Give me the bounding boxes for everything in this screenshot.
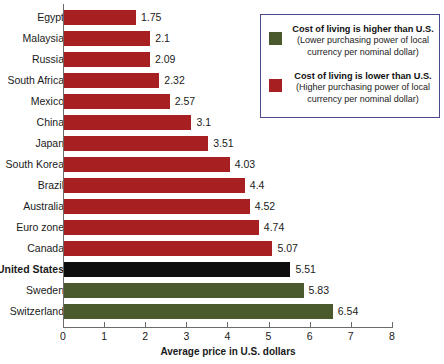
category-label: South Africa: [0, 73, 64, 88]
x-axis-tick: [392, 322, 393, 327]
bar-value-label: 4.03: [235, 157, 255, 172]
bar: [64, 241, 272, 256]
category-label: Canada: [0, 241, 64, 256]
bar-value-label: 1.75: [141, 10, 161, 25]
bar: [64, 157, 230, 172]
category-label: Switzerland: [0, 304, 64, 319]
category-label: China: [0, 115, 64, 130]
bar: [64, 52, 150, 67]
bar-row: Japan3.51: [0, 136, 444, 151]
category-label: Malaysia: [0, 31, 64, 46]
x-axis-tick: [186, 322, 187, 327]
x-axis-tick-label: 5: [254, 330, 284, 342]
y-axis-line: [63, 4, 64, 322]
category-label: Euro zone: [0, 220, 64, 235]
legend-title-higher: Cost of living is higher than U.S.: [289, 23, 437, 35]
bar-value-label: 2.1: [155, 31, 170, 46]
bar: [64, 178, 245, 193]
category-label: United States: [0, 262, 64, 277]
bar-row: Euro zone4.74: [0, 220, 444, 235]
category-label: Russia: [0, 52, 64, 67]
bar-row: Canada5.07: [0, 241, 444, 256]
x-axis-tick: [145, 322, 146, 327]
bar-value-label: 3.1: [196, 115, 211, 130]
x-axis-tick: [104, 322, 105, 327]
bar: [64, 199, 250, 214]
legend-sub-lower-line2: currency per nominal dollar): [289, 94, 437, 106]
bar-row: Brazil4.4: [0, 178, 444, 193]
bar-value-label: 2.32: [164, 73, 184, 88]
bar-value-label: 5.07: [277, 241, 297, 256]
bar: [64, 94, 170, 109]
x-axis-title: Average price in U.S. dollars: [63, 346, 393, 357]
x-axis-tick-label: 2: [130, 330, 160, 342]
x-axis-tick-label: 8: [377, 330, 407, 342]
legend-text-higher: Cost of living is higher than U.S. (Lowe…: [289, 23, 437, 58]
bar: [64, 31, 150, 46]
category-label: Mexico: [0, 94, 64, 109]
x-axis-tick: [63, 322, 64, 327]
x-axis-tick-label: 4: [212, 330, 242, 342]
category-label: South Korea: [0, 157, 64, 172]
x-axis-tick-label: 1: [89, 330, 119, 342]
legend-sub-higher-line1: (Lower purchasing power of local: [289, 35, 437, 47]
bar-value-label: 5.51: [295, 262, 315, 277]
bar-value-label: 4.52: [255, 199, 275, 214]
bar-value-label: 2.09: [155, 52, 175, 67]
bar: [64, 220, 259, 235]
bar: [64, 73, 159, 88]
bar-row: South Korea4.03: [0, 157, 444, 172]
x-axis-tick-label: 6: [295, 330, 325, 342]
bar-value-label: 2.57: [175, 94, 195, 109]
bar: [64, 115, 191, 130]
legend-title-lower: Cost of living is lower than U.S.: [289, 70, 437, 82]
bar: [64, 10, 136, 25]
category-label: Brazil: [0, 178, 64, 193]
category-label: Sweden: [0, 283, 64, 298]
bar: [64, 304, 333, 319]
bar: [64, 136, 208, 151]
legend-swatch-green-icon: [269, 32, 282, 45]
legend-swatch-red-icon: [269, 79, 282, 92]
bar-chart: Egypt1.75Malaysia2.1Russia2.09South Afri…: [0, 0, 444, 364]
x-axis-line: [63, 327, 393, 328]
x-axis-tick: [351, 322, 352, 327]
bar-value-label: 4.4: [250, 178, 265, 193]
bar: [64, 283, 304, 298]
legend-sub-lower-line1: (Higher purchasing power of local: [289, 82, 437, 94]
bar-value-label: 6.54: [338, 304, 358, 319]
x-axis-tick-label: 3: [171, 330, 201, 342]
bar-value-label: 5.83: [309, 283, 329, 298]
x-axis-tick-label: 7: [336, 330, 366, 342]
bar-value-label: 4.74: [264, 220, 284, 235]
category-label: Egypt: [0, 10, 64, 25]
x-axis-tick: [310, 322, 311, 327]
bar-value-label: 3.51: [213, 136, 233, 151]
legend-sub-higher-line2: currency per nominal dollar): [289, 47, 437, 59]
bar-row: Sweden5.83: [0, 283, 444, 298]
chart-legend: Cost of living is higher than U.S. (Lowe…: [260, 14, 440, 118]
bar-row: Australia4.52: [0, 199, 444, 214]
bar: [64, 262, 290, 277]
x-axis-tick: [227, 322, 228, 327]
bar-row: United States5.51: [0, 262, 444, 277]
category-label: Australia: [0, 199, 64, 214]
x-axis-tick-label: 0: [48, 330, 78, 342]
bar-row: Switzerland6.54: [0, 304, 444, 319]
x-axis-tick: [269, 322, 270, 327]
legend-text-lower: Cost of living is lower than U.S. (Highe…: [289, 70, 437, 105]
category-label: Japan: [0, 136, 64, 151]
